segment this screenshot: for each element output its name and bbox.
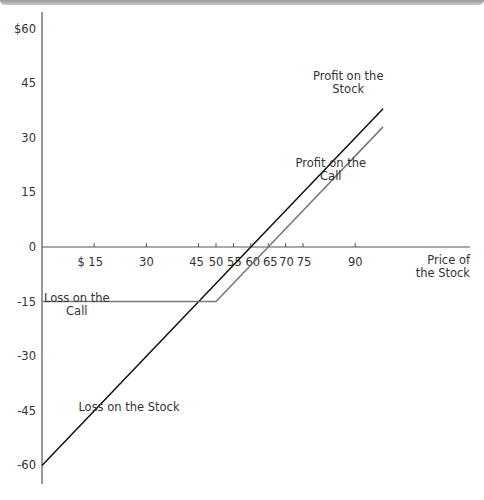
profit-loss-chart: $604530150-15-30-45-60$ 1530455055606570… <box>0 0 484 500</box>
annotation-label: Profit on the <box>296 156 367 170</box>
x-tick-label: $ 15 <box>77 255 103 269</box>
y-tick-label: -15 <box>17 295 36 309</box>
annotation-label: Stock <box>332 82 364 96</box>
annotation-label: Loss on the Stock <box>78 400 180 414</box>
x-tick-label: 70 <box>279 255 294 269</box>
annotation-label: Loss on the <box>44 291 110 305</box>
x-tick-label: 65 <box>263 255 278 269</box>
y-tick-label: 45 <box>21 76 36 90</box>
x-tick-label: 50 <box>209 255 224 269</box>
y-tick-label: 30 <box>21 131 36 145</box>
annotation-label: Call <box>320 169 341 183</box>
x-axis-label: the Stock <box>416 266 471 280</box>
y-tick-label: -30 <box>17 349 36 363</box>
y-tick-label: -45 <box>17 404 36 418</box>
x-tick-label: 75 <box>297 255 312 269</box>
x-tick-label: 45 <box>189 255 204 269</box>
annotation-label: Call <box>66 304 87 318</box>
x-tick-label: 55 <box>227 255 242 269</box>
annotation-label: Profit on the <box>313 69 384 83</box>
y-tick-label: 0 <box>29 240 36 254</box>
series-call-line <box>42 127 383 302</box>
x-tick-label: 90 <box>348 255 363 269</box>
x-axis-label: Price of <box>427 253 471 267</box>
y-tick-label: 15 <box>21 185 36 199</box>
x-tick-label: 30 <box>139 255 154 269</box>
y-tick-label: -60 <box>17 458 36 472</box>
y-tick-label: $60 <box>14 22 36 36</box>
